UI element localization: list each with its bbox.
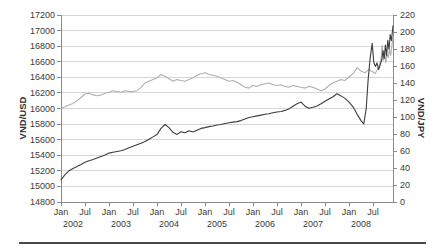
- x-axis-month-label: Jul: [319, 207, 331, 217]
- x-axis-year-label: 2005: [207, 219, 227, 229]
- left-axis-tick-label: 16800: [30, 41, 55, 51]
- left-axis-tick-label: 17200: [30, 10, 55, 20]
- right-axis-tick-label: 0: [400, 197, 405, 207]
- left-axis-tick-label: 16600: [30, 57, 55, 67]
- figure: 1480015000152001540015600158001600016200…: [0, 0, 443, 249]
- left-axis-tick-label: 16200: [30, 88, 55, 98]
- right-axis-tick-label: 160: [400, 61, 415, 71]
- exchange-rate-chart: 1480015000152001540015600158001600016200…: [0, 0, 443, 249]
- x-axis-month-label: Jan: [246, 207, 261, 217]
- vnd-usd-line: [61, 26, 393, 180]
- left-axis-tick-label: 15800: [30, 119, 55, 129]
- right-axis-tick-label: 200: [400, 27, 415, 37]
- left-axis-title: VND/USD: [17, 97, 28, 140]
- right-axis-tick-label: 180: [400, 44, 415, 54]
- right-axis-tick-label: 120: [400, 95, 415, 105]
- right-axis-tick-label: 80: [400, 129, 410, 139]
- x-axis-year-label: 2007: [303, 219, 323, 229]
- left-axis-tick-label: 15600: [30, 135, 55, 145]
- x-axis-year-label: 2002: [63, 219, 83, 229]
- x-axis-year-label: 2003: [111, 219, 131, 229]
- x-axis-month-label: Jul: [79, 207, 91, 217]
- left-axis-tick-label: 16000: [30, 104, 55, 114]
- x-axis-month-label: Jan: [54, 207, 69, 217]
- right-axis-tick-label: 220: [400, 10, 415, 20]
- x-axis-month-label: Jan: [150, 207, 165, 217]
- x-axis-month-label: Jan: [198, 207, 213, 217]
- x-axis-month-label: Jul: [127, 207, 139, 217]
- x-axis-month-label: Jul: [367, 207, 379, 217]
- right-axis-tick-label: 100: [400, 112, 415, 122]
- x-axis-year-label: 2004: [159, 219, 179, 229]
- left-axis-tick-label: 14800: [30, 197, 55, 207]
- left-axis-tick-label: 17000: [30, 26, 55, 36]
- right-axis-title: VND/JPY: [416, 98, 427, 139]
- x-axis-month-label: Jan: [102, 207, 117, 217]
- left-axis-tick-label: 15400: [30, 150, 55, 160]
- x-axis-month-label: Jul: [271, 207, 283, 217]
- x-axis-month-label: Jan: [294, 207, 309, 217]
- x-axis-month-label: Jan: [342, 207, 357, 217]
- x-axis-month-label: Jul: [223, 207, 235, 217]
- left-axis-tick-label: 15200: [30, 166, 55, 176]
- right-axis-tick-label: 40: [400, 163, 410, 173]
- right-axis-tick-label: 60: [400, 146, 410, 156]
- right-axis-tick-label: 20: [400, 180, 410, 190]
- bottom-rule: [19, 242, 426, 244]
- left-axis-tick-label: 16400: [30, 72, 55, 82]
- x-axis-year-label: 2006: [255, 219, 275, 229]
- right-axis-tick-label: 140: [400, 78, 415, 88]
- x-axis-month-label: Jul: [175, 207, 187, 217]
- left-axis-tick-label: 15000: [30, 181, 55, 191]
- x-axis-year-label: 2008: [351, 219, 371, 229]
